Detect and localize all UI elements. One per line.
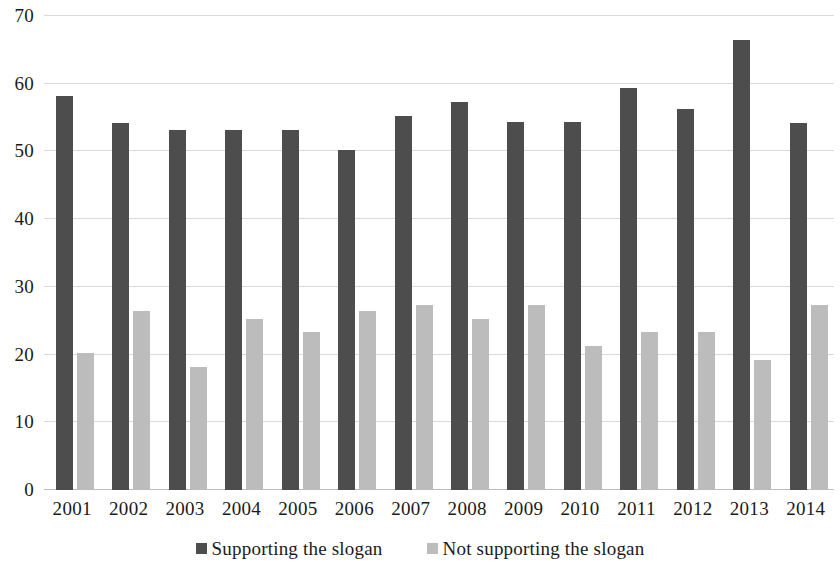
legend-swatch-icon (196, 543, 207, 554)
x-axis-tick-label: 2008 (439, 498, 495, 520)
bar-group (44, 16, 100, 490)
bars-layer (44, 16, 834, 490)
bar-chart: 706050403020100 200120022003200420052006… (0, 0, 840, 568)
chart-legend: Supporting the sloganNot supporting the … (0, 538, 840, 559)
bar (528, 305, 545, 490)
bar (416, 305, 433, 490)
bar-group (552, 16, 608, 490)
plot-area (44, 16, 834, 490)
bar (677, 109, 694, 490)
bar (564, 122, 581, 490)
legend-label: Not supporting the slogan (443, 538, 645, 559)
x-axis-tick-label: 2007 (383, 498, 439, 520)
bar (733, 40, 750, 490)
bar (451, 102, 468, 490)
bar (56, 96, 73, 490)
x-axis-tick-label: 2014 (778, 498, 834, 520)
x-axis-tick-label: 2011 (609, 498, 665, 520)
bar (133, 311, 150, 490)
x-axis-tick-label: 2012 (665, 498, 721, 520)
x-axis-tick-label: 2001 (44, 498, 100, 520)
y-axis-tick-label: 30 (15, 277, 34, 296)
x-axis-tick-label: 2009 (496, 498, 552, 520)
bar (620, 88, 637, 490)
x-axis-tick-label: 2006 (326, 498, 382, 520)
bar-group (213, 16, 269, 490)
bar (169, 130, 186, 490)
bar (282, 130, 299, 490)
x-axis-tick-label: 2013 (721, 498, 777, 520)
legend-item[interactable]: Supporting the slogan (196, 538, 383, 559)
y-axis-tick-label: 70 (15, 6, 34, 25)
bar (395, 116, 412, 490)
bar (359, 311, 376, 490)
legend-label: Supporting the slogan (212, 538, 383, 559)
bar-group (778, 16, 834, 490)
x-axis-tick-label: 2002 (101, 498, 157, 520)
bar-group (270, 16, 326, 490)
y-axis-tick-label: 40 (15, 209, 34, 228)
bar (507, 122, 524, 490)
legend-item[interactable]: Not supporting the slogan (427, 538, 645, 559)
bar (190, 367, 207, 490)
x-axis-tick-label: 2010 (552, 498, 608, 520)
bar (698, 332, 715, 490)
bar-group (495, 16, 551, 490)
y-axis-tick-label: 50 (15, 141, 34, 160)
y-axis-tick-label: 0 (24, 480, 34, 499)
bar (811, 305, 828, 490)
bar-group (157, 16, 213, 490)
legend-swatch-icon (427, 543, 438, 554)
y-axis-tick-label: 20 (15, 345, 34, 364)
bar-group (608, 16, 664, 490)
bar-group (383, 16, 439, 490)
bar (77, 353, 94, 490)
x-axis-tick-label: 2003 (157, 498, 213, 520)
x-axis: 2001200220032004200520062007200820092010… (44, 498, 834, 524)
bar (338, 150, 355, 490)
bar (641, 332, 658, 490)
y-axis: 706050403020100 (0, 0, 40, 506)
x-axis-tick-label: 2004 (214, 498, 270, 520)
bar (246, 319, 263, 490)
bar-group (665, 16, 721, 490)
bar (112, 123, 129, 490)
bar (225, 130, 242, 490)
bar (303, 332, 320, 490)
y-axis-tick-label: 60 (15, 74, 34, 93)
bar-group (100, 16, 156, 490)
x-axis-tick-label: 2005 (270, 498, 326, 520)
bar-group (439, 16, 495, 490)
y-axis-tick-label: 10 (15, 412, 34, 431)
bar-group (721, 16, 777, 490)
bar (585, 346, 602, 490)
bar (754, 360, 771, 490)
bar (790, 123, 807, 490)
bar (472, 319, 489, 490)
bar-group (326, 16, 382, 490)
